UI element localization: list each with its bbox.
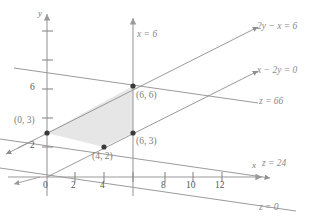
label-2y-minus-x-eq-6: 2y − x = 6 <box>257 21 297 31</box>
level-line-z24 <box>0 139 270 178</box>
x-tick-label-8: 8 <box>161 180 166 190</box>
vertex-label-6-6: (6, 6) <box>136 90 157 100</box>
vertex-dot-4-2 <box>101 144 106 149</box>
y-tick-label-6: 6 <box>30 82 35 92</box>
vertex-label-4-2: (4, 2) <box>92 151 113 161</box>
linear-programming-figure: y x 6 2 0 2 4 8 10 12 x = 6 2y − x = 6 x… <box>0 0 311 220</box>
constraint-line-2y-minus-x-eq-6 <box>18 27 258 148</box>
vertex-dot-0-3 <box>44 130 49 135</box>
label-z-eq-66: z = 66 <box>259 96 283 106</box>
y-axis-label: y <box>38 8 42 18</box>
constraint-line-2y-minus-x-eq-6-left-arrow <box>6 142 30 154</box>
vertex-dot-6-3 <box>130 130 135 135</box>
label-x-minus-2y-eq-0: x − 2y = 0 <box>257 65 297 75</box>
x-tick-label-4: 4 <box>100 180 105 190</box>
x-tick-label-2: 2 <box>71 180 76 190</box>
label-z-eq-0: z = 0 <box>259 202 279 212</box>
label-z-eq-24: z = 24 <box>262 158 286 168</box>
vertex-label-6-3: (6, 3) <box>136 136 157 146</box>
label-x-eq-6: x = 6 <box>137 29 157 39</box>
x-tick-label-0: 0 <box>43 180 48 190</box>
x-tick-label-10: 10 <box>186 180 196 190</box>
vertex-dot-6-6 <box>130 83 135 88</box>
x-tick-label-12: 12 <box>215 180 225 190</box>
y-tick-label-2: 2 <box>30 140 35 150</box>
x-axis-left-arrow <box>14 177 40 184</box>
vertex-label-0-3: (0, 3) <box>14 115 35 125</box>
feasible-region-shading <box>47 86 133 147</box>
x-axis-label: x <box>252 160 256 170</box>
